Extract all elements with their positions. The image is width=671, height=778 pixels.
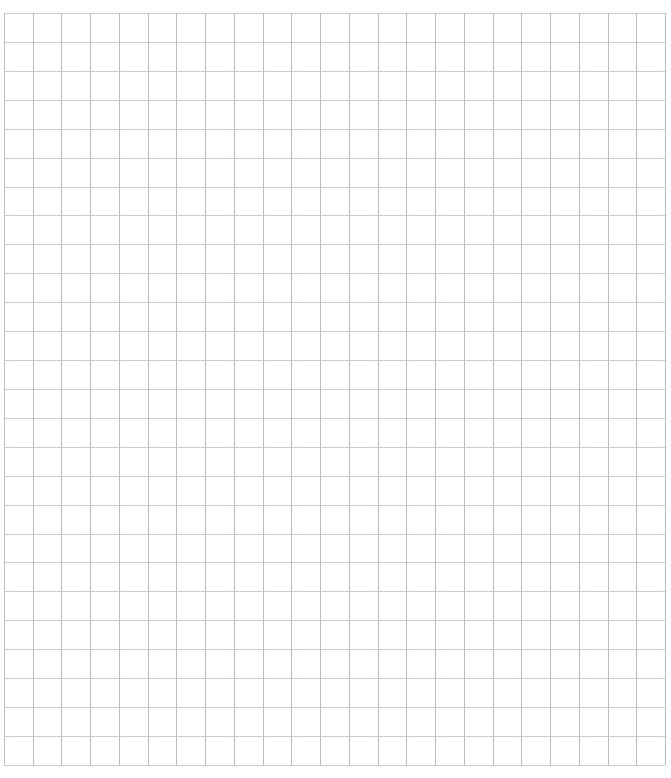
grid-page-canvas [0, 0, 671, 778]
square-grid-sheet [0, 0, 671, 778]
grid-background [4, 13, 665, 765]
